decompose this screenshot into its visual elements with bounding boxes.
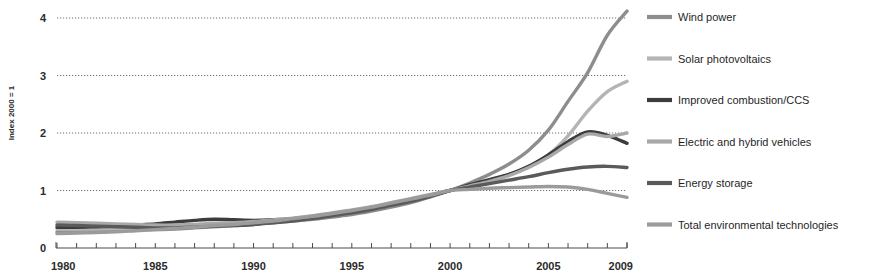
x-tick-label-2009: 2009 — [609, 260, 633, 272]
series-lines — [57, 11, 627, 234]
y-tick-label-4: 4 — [40, 12, 47, 24]
x-tick-label-2005: 2005 — [536, 260, 560, 272]
y-axis-title: Index 2000 = 1 — [7, 85, 16, 140]
legend-label-2: Improved combustion/CCS — [678, 94, 809, 106]
chart-legend: Wind powerSolar photovoltaicsImproved co… — [647, 11, 839, 231]
series-line-0 — [57, 11, 627, 232]
x-tick-label-1995: 1995 — [340, 260, 364, 272]
legend-label-0: Wind power — [678, 11, 736, 23]
gridlines — [57, 18, 627, 191]
x-tick-label-1990: 1990 — [241, 260, 265, 272]
line-chart: 01234 1980198519901995200020052009 Index… — [0, 0, 870, 277]
x-axis-tick-labels: 1980198519901995200020052009 — [51, 260, 633, 272]
x-tick-label-2000: 2000 — [438, 260, 462, 272]
legend-label-1: Solar photovoltaics — [678, 53, 771, 65]
x-axis-tickmarks — [56, 242, 627, 248]
y-axis-tick-labels: 01234 — [40, 12, 47, 254]
series-line-4 — [57, 166, 627, 228]
chart-figure: 01234 1980198519901995200020052009 Index… — [0, 0, 870, 277]
y-tick-label-0: 0 — [40, 242, 46, 254]
series-line-1 — [57, 81, 627, 229]
x-tick-label-1980: 1980 — [51, 260, 75, 272]
legend-label-5: Total environmental technologies — [678, 219, 839, 231]
y-tick-label-1: 1 — [40, 185, 46, 197]
legend-label-3: Electric and hybrid vehicles — [678, 136, 812, 148]
legend-label-4: Energy storage — [678, 177, 753, 189]
y-axis-title-text: Index 2000 = 1 — [7, 85, 16, 140]
y-tick-label-2: 2 — [40, 127, 46, 139]
x-tick-label-1985: 1985 — [143, 260, 167, 272]
y-tick-label-3: 3 — [40, 70, 46, 82]
